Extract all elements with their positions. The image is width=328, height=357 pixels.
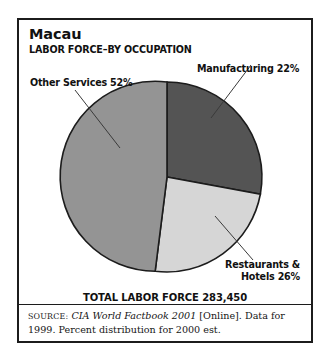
pie-slice-restaurants bbox=[155, 177, 260, 272]
pie-slice-manufacturing bbox=[167, 82, 262, 194]
source-work-title: CIA World Factbook 2001 bbox=[71, 310, 196, 321]
slice-label-restaurants-line2: Hotels 26% bbox=[241, 271, 300, 282]
slice-label-restaurants-line1: Restaurants & bbox=[225, 259, 300, 270]
source-divider bbox=[19, 304, 311, 305]
pie-chart: Other Services 52% Manufacturing 22% Res… bbox=[19, 20, 311, 341]
slice-label-other-services: Other Services 52% bbox=[30, 77, 132, 89]
figure-frame: Macau LABOR FORCE–BY OCCUPATION Other Se… bbox=[17, 18, 313, 343]
source-note: SOURCE: CIA World Factbook 2001 [Online]… bbox=[28, 309, 303, 336]
total-labor-force-caption: TOTAL LABOR FORCE 283,450 bbox=[19, 292, 311, 303]
slice-label-restaurants: Restaurants &Hotels 26% bbox=[205, 259, 300, 282]
source-label: SOURCE: bbox=[28, 312, 68, 321]
pie-slice-other-services bbox=[60, 81, 167, 271]
slice-label-manufacturing: Manufacturing 22% bbox=[197, 63, 299, 75]
